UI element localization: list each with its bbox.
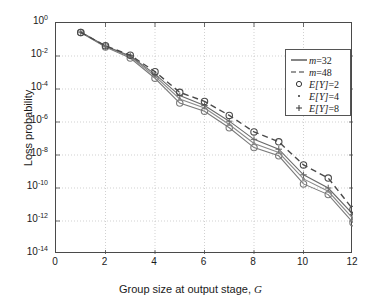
x-axis-title: Group size at output stage, G xyxy=(0,283,381,295)
legend-label-val: =4 xyxy=(328,91,339,102)
xtick-label: 8 xyxy=(238,256,268,267)
plus-marker-icon xyxy=(289,104,309,112)
legend-label: E[Y]=8 xyxy=(309,103,339,114)
xtick-label: 4 xyxy=(139,256,169,267)
xtick-label: 10 xyxy=(288,256,318,267)
legend-label-val: =8 xyxy=(328,103,339,114)
legend-label-var: E[Y] xyxy=(309,79,328,90)
legend-label-val: =2 xyxy=(328,79,339,90)
legend-label: m=32 xyxy=(309,55,332,66)
legend-item-m48: m=48 xyxy=(289,66,347,78)
x-axis-title-text: Group size at output stage, xyxy=(119,283,254,295)
solid-line-icon xyxy=(289,56,309,64)
legend-label: m=48 xyxy=(309,67,332,78)
xtick-label: 0 xyxy=(40,256,70,267)
ytick-label: 100 xyxy=(4,15,48,26)
legend-label-var: E[Y] xyxy=(309,91,328,102)
dot-marker-icon xyxy=(289,92,309,100)
legend-item-ey8: E[Y]=8 xyxy=(289,102,347,114)
legend: m=32 m=48 E[Y]=2 E[Y]=4 xyxy=(285,49,351,116)
legend-label-val: =48 xyxy=(316,67,332,78)
legend-label-var: E[Y] xyxy=(309,103,328,114)
dashed-line-icon xyxy=(289,68,309,76)
legend-label-val: =32 xyxy=(316,55,332,66)
legend-label: E[Y]=4 xyxy=(309,91,339,102)
legend-item-ey4: E[Y]=4 xyxy=(289,90,347,102)
legend-item-m32: m=32 xyxy=(289,54,347,66)
legend-item-ey2: E[Y]=2 xyxy=(289,78,347,90)
legend-label: E[Y]=2 xyxy=(309,79,339,90)
xtick-label: 2 xyxy=(90,256,120,267)
x-axis-title-variable: G xyxy=(254,283,262,295)
y-axis-title: Loss probability xyxy=(22,48,34,208)
ytick-label: 10-12 xyxy=(4,213,48,224)
figure: 100 10-2 10-4 10-6 10-8 10-10 10-12 10-1… xyxy=(0,0,381,306)
xtick-label: 6 xyxy=(189,256,219,267)
xtick-label: 12 xyxy=(337,256,367,267)
circle-marker-icon xyxy=(289,80,309,88)
